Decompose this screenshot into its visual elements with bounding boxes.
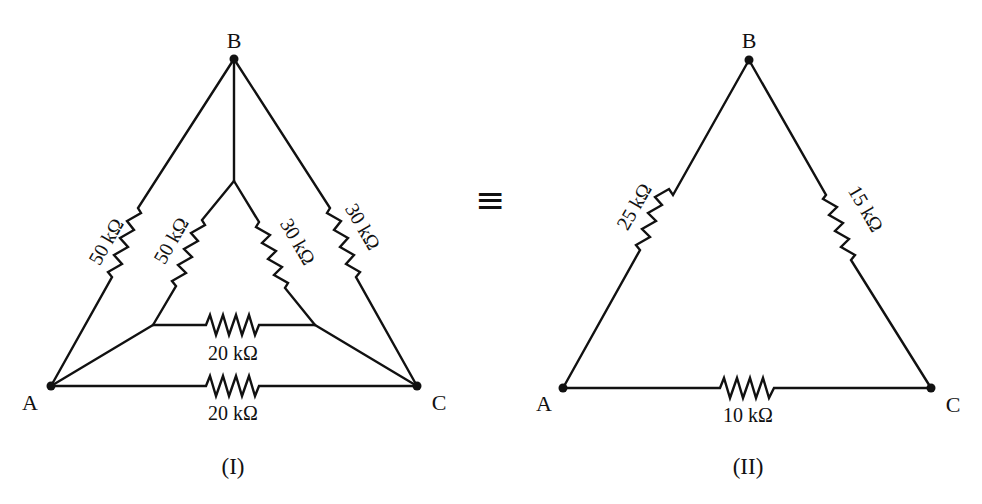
- resistor-inner-pr: 30 kΩ: [234, 181, 320, 325]
- caption-ii: (II): [733, 454, 764, 479]
- node-label-c-i: C: [432, 390, 447, 415]
- wire-outer-ab: [51, 59, 234, 386]
- node-a-i: [47, 382, 56, 391]
- node-a-ii: [559, 384, 568, 393]
- wire-inner-qr: [153, 315, 315, 335]
- resistor-outer-bc: 30 kΩ: [234, 59, 417, 386]
- resistor-bc-ii: 15 kΩ: [749, 60, 931, 388]
- resistor-label-bc-ii: 15 kΩ: [844, 181, 888, 235]
- node-label-a-i: A: [22, 390, 38, 415]
- node-label-b-i: B: [227, 28, 242, 53]
- resistor-outer-ab: 50 kΩ: [51, 59, 234, 386]
- resistor-label-outer-ac: 20 kΩ: [208, 402, 258, 424]
- equivalence-symbol: ≡: [475, 179, 505, 220]
- resistor-label-inner-pr: 30 kΩ: [276, 214, 320, 268]
- resistor-label-inner-qr: 20 kΩ: [208, 342, 258, 364]
- circuit-i: 50 kΩ 30 kΩ 20 kΩ 50 kΩ 30 kΩ 20 k: [22, 28, 446, 479]
- resistor-label-ac-ii: 10 kΩ: [723, 404, 773, 426]
- resistor-ab-ii: 25 kΩ: [563, 60, 749, 388]
- wire-ab-ii: [563, 60, 749, 388]
- circuit-ii: 25 kΩ 15 kΩ 10 kΩ B A C (II): [536, 28, 960, 479]
- node-b-ii: [745, 56, 754, 65]
- resistor-label-outer-bc: 30 kΩ: [341, 199, 385, 253]
- node-c-ii: [927, 384, 936, 393]
- resistor-inner-qr: 20 kΩ: [153, 315, 315, 364]
- wire-bc-ii: [749, 60, 931, 388]
- resistor-inner-qp: 50 kΩ: [149, 181, 234, 325]
- resistor-ac-ii: 10 kΩ: [563, 378, 931, 426]
- wire-outer-ac: [51, 376, 417, 396]
- node-b-i: [230, 55, 239, 64]
- resistor-outer-ac: 20 kΩ: [51, 376, 417, 424]
- wire-c-to-inner-right: [315, 325, 417, 386]
- circuit-figure: 50 kΩ 30 kΩ 20 kΩ 50 kΩ 30 kΩ 20 k: [0, 0, 982, 504]
- node-label-b-ii: B: [742, 28, 757, 53]
- node-label-c-ii: C: [946, 392, 961, 417]
- wire-ac-ii: [563, 378, 931, 398]
- resistor-label-outer-ab: 50 kΩ: [84, 214, 128, 268]
- wire-outer-bc: [234, 59, 417, 386]
- node-c-i: [413, 382, 422, 391]
- wire-a-to-inner-left: [51, 325, 153, 386]
- caption-i: (I): [222, 454, 245, 479]
- node-label-a-ii: A: [536, 391, 552, 416]
